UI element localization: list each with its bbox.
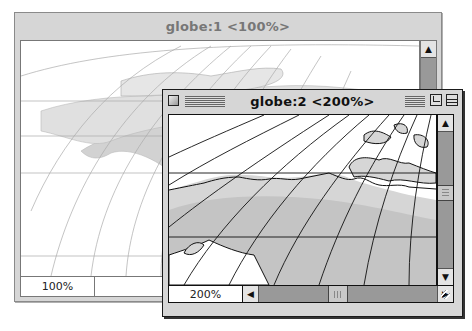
window-title-bar[interactable]: globe:1 <100%> [15,13,441,40]
window-status-bar: 200% ◀ ▶ [168,286,454,303]
arctic-map-zoomed [169,115,436,285]
title-stripes [185,96,225,107]
zoom-box-icon[interactable] [430,94,442,106]
scroll-up-arrow-icon[interactable]: ▲ [438,115,453,132]
vertical-scroll-thumb[interactable] [438,185,453,201]
map-canvas[interactable] [168,114,437,286]
zoom-level-field[interactable]: 200% [169,286,243,302]
collapse-box-icon[interactable] [446,94,458,106]
horizontal-scrollbar[interactable]: ◀ ▶ [243,286,453,302]
title-stripes [405,96,425,107]
zoom-level-field[interactable]: 100% [21,277,95,296]
window-globe-2[interactable]: globe:2 <200%> [162,89,463,317]
window-title: globe:2 <200%> [250,94,374,109]
scroll-down-arrow-icon[interactable]: ▼ [438,268,453,285]
window-title-bar[interactable]: globe:2 <200%> [163,90,462,112]
vertical-scrollbar[interactable]: ▲ ▼ [437,114,454,286]
horizontal-scroll-thumb[interactable] [328,286,348,302]
scroll-up-arrow-icon[interactable]: ▲ [421,41,436,58]
close-box-icon[interactable] [168,95,179,106]
resize-grip-icon[interactable] [437,286,454,303]
scroll-left-arrow-icon[interactable]: ◀ [243,286,259,302]
window-title: globe:1 <100%> [166,19,290,34]
